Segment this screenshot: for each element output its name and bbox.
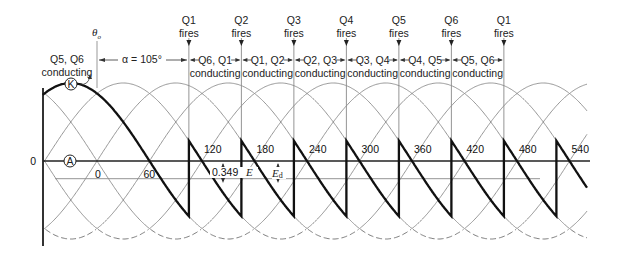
fire-label-q6-6: Q6 [444,14,458,26]
alpha-arrow-left-icon [99,58,105,62]
fire-label-q3-3: Q3 [287,14,301,26]
conducting-pair-4: Q3, Q4 [356,54,390,66]
conducting-word-4: conducting [347,67,398,79]
conducting-pair-2: Q1, Q2 [251,54,285,66]
avg-dim-arrow-down-icon [221,178,225,183]
initial-conducting-line2: conducting [42,66,93,78]
x-tick-label-60: 60 [144,168,156,180]
fire-word-7: fires [494,27,514,39]
conduct-arrow-right-icon [235,58,240,62]
conduct-arrow-left-icon [295,58,300,62]
conduct-arrow-right-icon [288,58,293,62]
conduct-arrow-left-icon [190,58,195,62]
fire-arrow-down-icon [501,40,506,46]
fire-label-q1-1: Q1 [182,14,196,26]
line-voltage-trough-1 [43,229,359,239]
conduct-arrow-right-icon [393,58,398,62]
conduct-arrow-right-icon [445,58,450,62]
fire-label-q5-5: Q5 [392,14,406,26]
x-tick-label-0: 0 [95,168,101,180]
fire-label-q2-2: Q2 [234,14,248,26]
fire-arrow-down-icon [186,40,191,46]
fire-label-q4-4: Q4 [339,14,353,26]
conducting-pair-5: Q4, Q5 [408,54,442,66]
conducting-pair-6: Q5, Q6 [461,54,495,66]
conducting-word-5: conducting [400,67,451,79]
conducting-pair-1: Q6, Q1 [198,54,232,66]
conduct-arrow-left-icon [242,58,247,62]
conduct-arrow-left-icon [452,58,457,62]
y-zero-label: 0 [30,155,36,167]
theta0-label: θo [92,26,101,41]
conduct-arrow-right-icon [498,58,503,62]
point-k-label: K [67,78,74,90]
fire-arrow-down-icon [344,40,349,46]
x-tick-label-420: 420 [467,143,485,155]
x-tick-label-120: 120 [204,143,222,155]
conducting-word-6: conducting [452,67,503,79]
alpha-arrow-right-icon [181,58,187,62]
annotations: θo α = 105° Q5, Q6 conducting K A 0.349 … [42,26,286,183]
conduct-arrow-left-icon [347,58,352,62]
conducting-word-2: conducting [242,67,293,79]
x-tick-label-360: 360 [414,143,432,155]
conducting-word-3: conducting [295,67,346,79]
avg-e-label: E [245,166,253,178]
fire-word-1: fires [179,27,199,39]
line-voltage-curve-6 [43,83,587,229]
rectifier-waveform-diagram: 0 060120180240300360420480540 θo α = 105… [0,0,620,259]
fire-word-6: fires [441,27,461,39]
fire-word-5: fires [389,27,409,39]
conducting-word-1: conducting [190,67,241,79]
avg-value-label: 0.349 [212,166,238,178]
fire-word-4: fires [336,27,356,39]
fire-arrow-down-icon [239,40,244,46]
conduct-arrow-right-icon [340,58,345,62]
alpha-label: α = 105° [122,53,162,65]
x-tick-label-480: 480 [519,143,537,155]
point-a-label: A [66,155,73,167]
x-tick-label-540: 540 [572,143,590,155]
initial-conducting-line1: Q5, Q6 [50,53,84,65]
fire-word-2: fires [231,27,251,39]
x-tick-label-300: 300 [362,143,380,155]
x-tick-label-180: 180 [257,143,275,155]
line-voltage-curve-1 [45,83,588,229]
fire-arrow-down-icon [396,40,401,46]
x-tick-label-240: 240 [309,143,327,155]
fire-word-3: fires [284,27,304,39]
conducting-pair-3: Q2, Q3 [303,54,337,66]
fire-arrow-down-icon [291,40,296,46]
conduct-arrow-left-icon [400,58,405,62]
fire-label-q1-7: Q1 [497,14,511,26]
fire-arrow-down-icon [449,40,454,46]
